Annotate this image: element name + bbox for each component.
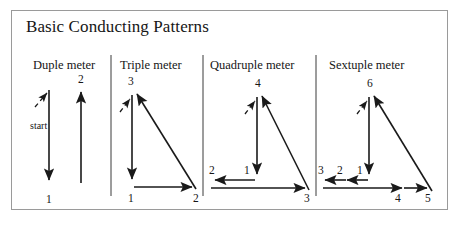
quad-start-arrow [245, 101, 255, 114]
duple-beat-1-label: 1 [46, 193, 52, 205]
pattern-triple [120, 94, 196, 189]
duple-start-label: start [30, 120, 47, 131]
patterns-drawing [12, 11, 447, 209]
sext-start-arrow [357, 101, 367, 114]
sext-beat-5-label: 5 [425, 192, 431, 204]
sext-beat-4-label: 4 [395, 192, 401, 204]
quad-beat-4-stroke [262, 96, 309, 190]
conducting-patterns-figure: Basic Conducting Patterns Duple meter Tr… [11, 10, 448, 210]
triple-start-arrow [120, 99, 130, 112]
sext-beat-2-label: 2 [337, 164, 343, 176]
sext-beat-6-label: 6 [367, 77, 373, 89]
triple-beat-3-stroke [137, 94, 196, 189]
pattern-duple [35, 90, 81, 183]
pattern-quadruple [211, 96, 309, 190]
quad-beat-3-label: 3 [304, 192, 310, 204]
duple-start-arrow [35, 93, 47, 107]
sext-beat-6-stroke [374, 96, 432, 191]
quad-beat-1-label: 1 [244, 164, 250, 176]
triple-beat-2-label: 2 [193, 192, 199, 204]
triple-beat-3-label: 3 [128, 75, 134, 87]
pattern-sextuple [323, 96, 432, 191]
quad-beat-2-label: 2 [209, 164, 215, 176]
quad-beat-4-label: 4 [255, 77, 261, 89]
duple-beat-2-label: 2 [78, 73, 84, 85]
sext-beat-3-label: 3 [318, 164, 324, 176]
triple-beat-1-label: 1 [128, 192, 134, 204]
sext-beat-1-label: 1 [357, 164, 363, 176]
